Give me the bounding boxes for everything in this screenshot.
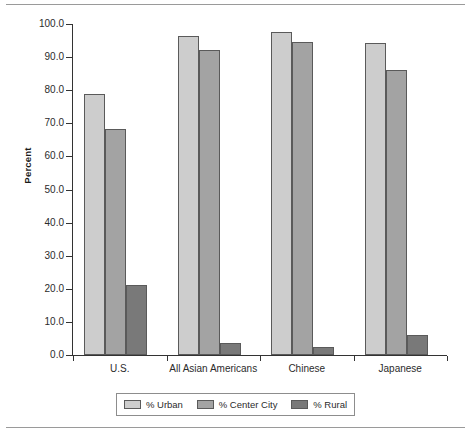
bar-group [178, 24, 241, 355]
legend-item: % Rural [291, 399, 347, 410]
y-axis-tick-mark [66, 156, 72, 157]
y-axis-tick-label: 20.0 [24, 284, 64, 294]
bar [220, 343, 241, 355]
y-axis-tick-mark [66, 57, 72, 58]
figure-bottom-rule [6, 427, 465, 428]
legend-item: % Center City [197, 399, 278, 410]
y-axis-tick-mark [66, 24, 72, 25]
chart-legend: % Urban% Center City% Rural [116, 393, 355, 416]
y-axis-tick-label: 50.0 [24, 185, 64, 195]
y-axis-tick-label: 80.0 [24, 85, 64, 95]
legend-item: % Urban [124, 399, 183, 410]
bar-chart: Percent 100.090.080.070.060.050.040.030.… [0, 0, 471, 439]
y-axis-tick-label: 10.0 [24, 317, 64, 327]
y-axis-tick-label: 30.0 [24, 251, 64, 261]
y-axis-tick-mark [66, 289, 72, 290]
x-axis-tick-mark [354, 356, 355, 361]
bar [126, 285, 147, 355]
y-axis-tick-mark [66, 322, 72, 323]
bar [365, 43, 386, 355]
x-axis-tick-mark [260, 356, 261, 361]
x-axis-category-label: Chinese [260, 363, 354, 374]
bar-group [365, 24, 428, 355]
y-axis-tick-label: 60.0 [24, 151, 64, 161]
bar-group [84, 24, 147, 355]
bar [199, 50, 220, 355]
bar [386, 70, 407, 355]
y-axis-tick-label: 90.0 [24, 52, 64, 62]
plot-bars-area [73, 24, 447, 355]
bar [407, 335, 428, 355]
y-axis-tick-label: 40.0 [24, 218, 64, 228]
bar [178, 36, 199, 355]
legend-swatch-urban [124, 400, 141, 409]
bar [271, 32, 292, 355]
y-axis-tick-mark [66, 223, 72, 224]
y-axis-tick-label: 0.0 [24, 350, 64, 360]
bar [313, 347, 334, 355]
y-axis-tick-labels: 100.090.080.070.060.050.040.030.020.010.… [20, 0, 64, 439]
bar [105, 129, 126, 355]
y-axis-tick-label: 70.0 [24, 118, 64, 128]
y-axis-tick-mark [66, 355, 72, 356]
legend-item-label: % Center City [219, 399, 278, 410]
x-axis-tick-mark [447, 356, 448, 361]
legend-item-label: % Urban [146, 399, 183, 410]
bar-group [271, 24, 334, 355]
legend-item-label: % Rural [313, 399, 347, 410]
y-axis-tick-mark [66, 190, 72, 191]
x-axis-category-label: All Asian Americans [167, 363, 261, 374]
x-axis-tick-mark [73, 356, 74, 361]
x-axis-category-label: U.S. [73, 363, 167, 374]
y-axis-tick-label: 100.0 [24, 19, 64, 29]
legend-swatch-center-city [197, 400, 214, 409]
y-axis-tick-mark [66, 256, 72, 257]
bar [292, 42, 313, 355]
bar [84, 94, 105, 355]
y-axis-tick-mark [66, 123, 72, 124]
legend-swatch-rural [291, 400, 308, 409]
x-axis-category-label: Japanese [354, 363, 448, 374]
x-axis-tick-mark [167, 356, 168, 361]
y-axis-tick-mark [66, 90, 72, 91]
